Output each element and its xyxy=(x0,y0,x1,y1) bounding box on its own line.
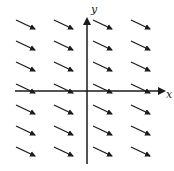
slope-arrow-icon xyxy=(54,41,73,50)
slope-arrow-icon xyxy=(131,41,150,50)
y-axis-label: y xyxy=(90,3,98,16)
slope-arrow-icon xyxy=(131,126,150,135)
slope-arrow-icon xyxy=(54,62,73,71)
slope-arrow-icon xyxy=(16,20,35,29)
slope-arrow-icon xyxy=(16,126,35,135)
slope-arrow-icon xyxy=(54,105,73,114)
x-axis xyxy=(15,87,166,95)
slope-arrow-icon xyxy=(54,126,73,135)
y-axis-arrowhead-icon xyxy=(83,17,91,25)
slope-field-diagram: x y xyxy=(0,0,174,171)
slope-arrow-icon xyxy=(93,105,112,114)
slope-arrow-icon xyxy=(131,20,150,29)
slope-arrow-icon xyxy=(131,105,150,114)
slope-arrow-icon xyxy=(93,20,112,29)
slope-arrow-icon xyxy=(93,41,112,50)
slope-arrows xyxy=(16,20,150,156)
slope-arrow-icon xyxy=(131,62,150,71)
slope-arrow-icon xyxy=(93,126,112,135)
slope-arrow-icon xyxy=(54,147,73,156)
slope-arrow-icon xyxy=(131,147,150,156)
x-axis-label: x xyxy=(166,88,173,101)
slope-arrow-icon xyxy=(16,147,35,156)
slope-arrow-icon xyxy=(16,62,35,71)
slope-arrow-icon xyxy=(16,41,35,50)
slope-arrow-icon xyxy=(16,105,35,114)
x-axis-arrowhead-icon xyxy=(158,87,166,95)
slope-arrow-icon xyxy=(54,20,73,29)
slope-arrow-icon xyxy=(93,62,112,71)
slope-arrow-icon xyxy=(93,147,112,156)
